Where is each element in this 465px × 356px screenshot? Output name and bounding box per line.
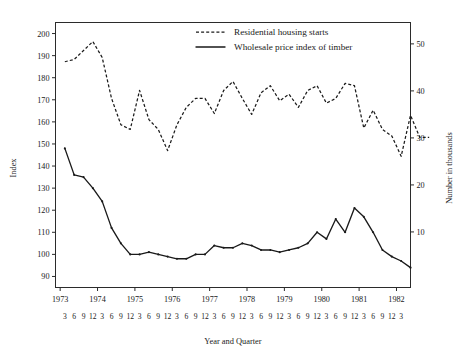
series-marker [129, 253, 131, 255]
left-tick-label-180: 180 [37, 74, 49, 83]
series-marker [381, 249, 383, 251]
left-tick-label-100: 100 [37, 250, 49, 259]
series-marker [353, 207, 355, 209]
quarter-label: 3 [212, 312, 216, 321]
year-label-1974: 1974 [89, 295, 105, 304]
series-marker [251, 244, 253, 246]
series-marker [176, 258, 178, 260]
series-marker [195, 253, 197, 255]
series-marker [167, 256, 169, 258]
series-marker [409, 267, 411, 269]
left-tick-label-150: 150 [37, 140, 49, 149]
quarter-label: 6 [110, 312, 114, 321]
series-marker [139, 253, 141, 255]
quarter-label: 6 [222, 312, 226, 321]
quarter-label: 6 [371, 312, 375, 321]
quarter-label: 3 [250, 312, 254, 321]
quarter-label: 6 [184, 312, 188, 321]
quarter-label: 12 [89, 312, 97, 321]
left-tick-label-120: 120 [37, 206, 49, 215]
quarter-label: 12 [276, 312, 284, 321]
series-marker [344, 231, 346, 233]
chart-figure: 90100110120130140150160170180190200 1020… [0, 0, 465, 356]
series-marker [279, 251, 281, 253]
right-tick-label-40: 40 [417, 87, 425, 96]
series-marker [335, 218, 337, 220]
year-label-1981: 1981 [351, 295, 367, 304]
year-label-1977: 1977 [201, 295, 217, 304]
quarter-label: 6 [72, 312, 76, 321]
legend-label-1: Residential housing starts [234, 27, 329, 37]
left-tick-label-190: 190 [37, 52, 49, 61]
year-label-1976: 1976 [164, 295, 180, 304]
series-marker [92, 187, 94, 189]
quarter-label: 12 [313, 312, 321, 321]
quarter-label: 3 [325, 312, 329, 321]
left-tick-label-160: 160 [37, 118, 49, 127]
quarter-label: 3 [287, 312, 291, 321]
series-marker [213, 244, 215, 246]
series-marker [82, 176, 84, 178]
quarter-label: 3 [399, 312, 403, 321]
right-tick-label-20: 20 [417, 181, 425, 190]
series-marker [307, 242, 309, 244]
series-marker [372, 231, 374, 233]
quarter-label: 6 [334, 312, 338, 321]
quarter-label: 12 [126, 312, 134, 321]
quarter-label: 12 [201, 312, 209, 321]
legend-label-2: Wholesale price index of timber [234, 42, 352, 52]
quarter-label: 3 [175, 312, 179, 321]
y2-axis-title: Number in thousands [445, 132, 454, 204]
quarter-label: 12 [388, 312, 396, 321]
quarter-label: 3 [138, 312, 142, 321]
year-label-1978: 1978 [239, 295, 255, 304]
right-tick-label-30: 30 [417, 134, 425, 143]
series-marker [325, 238, 327, 240]
year-label-1975: 1975 [127, 295, 143, 304]
series-marker [363, 216, 365, 218]
quarter-label: 9 [231, 312, 235, 321]
series-marker [204, 253, 206, 255]
quarter-label: 12 [239, 312, 247, 321]
year-label-1980: 1980 [314, 295, 330, 304]
series-marker [148, 251, 150, 253]
quarter-label: 3 [63, 312, 67, 321]
left-tick-label-140: 140 [37, 162, 49, 171]
series-marker [288, 249, 290, 251]
series-marker [120, 242, 122, 244]
quarter-label: 9 [156, 312, 160, 321]
quarter-label: 9 [194, 312, 198, 321]
series-marker [316, 231, 318, 233]
quarter-label: 6 [259, 312, 263, 321]
quarter-label: 3 [100, 312, 104, 321]
series-marker [157, 253, 159, 255]
year-label-1979: 1979 [276, 295, 292, 304]
series-marker [73, 174, 75, 176]
left-tick-label-130: 130 [37, 184, 49, 193]
series-marker [297, 247, 299, 249]
left-tick-label-90: 90 [41, 272, 49, 281]
left-tick-label-200: 200 [37, 30, 49, 39]
right-tick-label-10: 10 [417, 228, 425, 237]
quarter-label: 6 [296, 312, 300, 321]
series-marker [260, 249, 262, 251]
series-marker [223, 247, 225, 249]
right-tick-label-50: 50 [417, 40, 425, 49]
timber-housing-line-chart: 90100110120130140150160170180190200 1020… [0, 0, 465, 356]
quarter-label: 3 [362, 312, 366, 321]
series-marker [185, 258, 187, 260]
series-marker [101, 200, 103, 202]
left-tick-label-110: 110 [38, 228, 50, 237]
year-label-1973: 1973 [52, 295, 68, 304]
x-axis-title: Year and Quarter [204, 337, 261, 346]
quarter-label: 9 [119, 312, 123, 321]
series-marker [241, 242, 243, 244]
y-axis-title: Index [9, 158, 18, 178]
quarter-label: 9 [306, 312, 310, 321]
series-marker [232, 247, 234, 249]
quarter-label: 12 [164, 312, 172, 321]
left-tick-label-170: 170 [37, 96, 49, 105]
quarter-label: 9 [343, 312, 347, 321]
quarter-label: 9 [381, 312, 385, 321]
series-marker [111, 227, 113, 229]
